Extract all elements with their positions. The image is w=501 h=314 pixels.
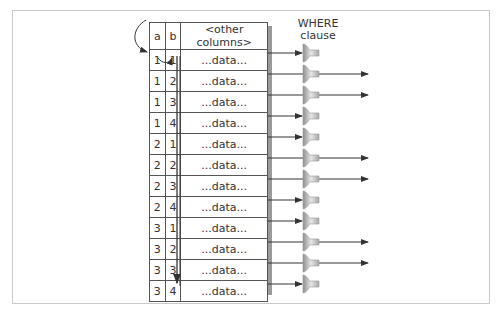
hop-arrow-icon — [158, 58, 172, 63]
arrows-layer — [0, 0, 501, 314]
filter-row-3 — [268, 107, 319, 125]
filter-row-6 — [268, 170, 368, 188]
filter-row-10 — [268, 254, 368, 272]
funnel-icon — [303, 233, 319, 251]
funnel-icon — [303, 44, 319, 62]
filter-row-4 — [268, 128, 319, 146]
funnel-icon — [303, 212, 319, 230]
funnel-icon — [303, 86, 319, 104]
filter-row-8 — [268, 212, 319, 230]
filter-row-1 — [268, 65, 368, 83]
filter-row-2 — [268, 86, 368, 104]
funnel-icon — [303, 149, 319, 167]
funnel-icon — [303, 170, 319, 188]
filter-row-11 — [268, 275, 319, 293]
curved-arrow-icon — [135, 20, 147, 52]
funnel-icon — [303, 107, 319, 125]
funnel-icon — [303, 128, 319, 146]
filter-row-7 — [268, 191, 319, 209]
filter-row-9 — [268, 233, 368, 251]
filter-row-5 — [268, 149, 368, 167]
funnel-icon — [303, 254, 319, 272]
funnel-icon — [303, 191, 319, 209]
funnel-icon — [303, 65, 319, 83]
filter-row-0 — [268, 44, 319, 62]
down-arrow-icon — [177, 56, 180, 286]
funnel-icon — [303, 275, 319, 293]
